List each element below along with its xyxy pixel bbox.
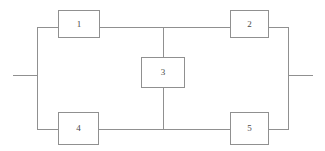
wire-right-rail xyxy=(288,27,289,130)
terminal-left-lead xyxy=(13,75,38,76)
node-block-1-label: 1 xyxy=(77,19,82,28)
wire-bottom-left-segment xyxy=(37,129,59,130)
node-block-4-label: 4 xyxy=(76,124,81,133)
diagram-canvas: 1 2 3 4 5 xyxy=(0,0,325,151)
wire-left-rail xyxy=(37,27,38,130)
node-block-3[interactable]: 3 xyxy=(141,57,185,88)
wire-top-middle-segment xyxy=(99,27,231,28)
wire-bottom-right-segment xyxy=(268,129,289,130)
node-block-1[interactable]: 1 xyxy=(58,10,100,38)
node-block-5-label: 5 xyxy=(247,124,252,133)
wire-top-right-segment xyxy=(268,27,289,28)
wire-bridge-lower-segment xyxy=(163,88,164,130)
node-block-2-label: 2 xyxy=(247,19,252,28)
wire-bridge-upper-segment xyxy=(163,27,164,58)
node-block-4[interactable]: 4 xyxy=(58,112,99,145)
node-block-5[interactable]: 5 xyxy=(230,112,269,145)
node-block-2[interactable]: 2 xyxy=(230,10,269,38)
node-block-3-label: 3 xyxy=(161,68,166,77)
terminal-right-lead xyxy=(288,75,313,76)
wire-bottom-middle-segment xyxy=(98,129,231,130)
wire-top-left-segment xyxy=(37,27,59,28)
